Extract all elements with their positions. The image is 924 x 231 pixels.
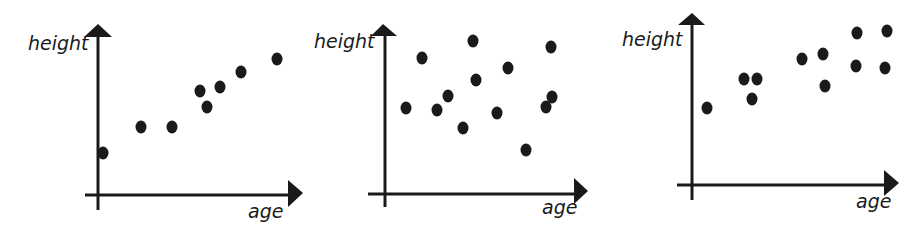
- y-axis-label: height: [622, 28, 684, 50]
- x-axis-label: age: [248, 200, 283, 222]
- data-point: [492, 107, 503, 120]
- data-point: [236, 66, 247, 79]
- data-point: [167, 121, 178, 134]
- plot-1: height age: [28, 24, 303, 222]
- plot-2: height age: [314, 24, 588, 218]
- data-point: [417, 52, 428, 65]
- data-point: [818, 48, 829, 61]
- data-point: [752, 73, 763, 86]
- y-axis-arrow-icon: [678, 13, 705, 25]
- data-point: [882, 25, 893, 38]
- data-point: [546, 41, 557, 54]
- data-point: [401, 102, 412, 115]
- data-point: [432, 104, 443, 117]
- y-axis-label: height: [314, 30, 376, 52]
- y-axis-label: height: [28, 32, 90, 54]
- x-axis-label: age: [856, 190, 891, 212]
- plot-3: height age: [622, 13, 899, 212]
- data-point: [521, 144, 532, 157]
- data-point: [880, 62, 891, 75]
- data-point: [851, 60, 862, 73]
- data-point: [202, 101, 213, 114]
- data-point: [852, 27, 863, 40]
- data-point: [215, 81, 226, 94]
- data-point: [136, 121, 147, 134]
- data-points: [98, 53, 283, 160]
- data-point: [458, 122, 469, 135]
- data-point: [797, 53, 808, 66]
- data-points: [401, 35, 558, 157]
- data-point: [739, 73, 750, 86]
- data-point: [747, 93, 758, 106]
- data-point: [702, 102, 713, 115]
- scatter-plots: height age height age height age: [0, 0, 924, 231]
- data-points: [702, 25, 893, 115]
- data-point: [503, 62, 514, 75]
- data-point: [471, 74, 482, 87]
- x-axis-label: age: [542, 196, 577, 218]
- x-axis-arrow-icon: [288, 180, 303, 207]
- data-point: [195, 85, 206, 98]
- data-point: [547, 91, 558, 104]
- data-point: [443, 90, 454, 103]
- y-axis-arrow-icon: [371, 24, 397, 36]
- data-point: [98, 147, 109, 160]
- data-point: [272, 53, 283, 66]
- data-point: [820, 80, 831, 93]
- data-point: [468, 35, 479, 48]
